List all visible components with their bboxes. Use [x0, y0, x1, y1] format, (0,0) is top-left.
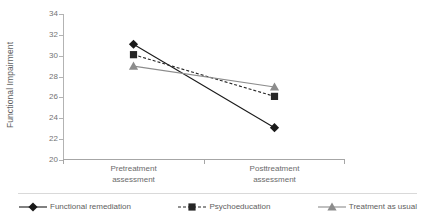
- legend-label: Functional remediation: [50, 203, 131, 211]
- triangle-marker: [129, 62, 138, 70]
- y-axis-title: Functional Impairment: [0, 0, 20, 170]
- diamond-marker: [28, 202, 37, 211]
- y-axis-tick-mark: [59, 139, 63, 140]
- series-line: [134, 66, 275, 87]
- y-axis-tick-mark: [59, 35, 63, 36]
- legend-key-triangle: [317, 201, 347, 213]
- legend-items: Functional remediationPsychoeducationTre…: [18, 197, 417, 217]
- series-layer: [63, 14, 345, 160]
- legend-key-diamond: [18, 201, 48, 213]
- y-axis-tick-label: 32: [36, 31, 58, 39]
- legend-divider: [18, 193, 417, 194]
- legend-label: Treatment as usual: [349, 203, 417, 211]
- square-marker: [271, 93, 278, 100]
- series-2: [130, 51, 278, 100]
- y-axis-tick-mark: [59, 97, 63, 98]
- y-axis-tick-label: 34: [36, 10, 58, 18]
- legend-key: [177, 201, 207, 213]
- legend-key: [317, 201, 347, 213]
- legend-label: Psychoeducation: [209, 203, 270, 211]
- chart-legend: Functional remediationPsychoeducationTre…: [0, 193, 433, 221]
- series-line: [134, 55, 275, 97]
- legend-entry-3[interactable]: Treatment as usual: [317, 201, 417, 213]
- y-axis-tick-label: 26: [36, 93, 58, 101]
- legend-entry-2[interactable]: Psychoeducation: [177, 201, 270, 213]
- y-axis-title-text: Functional Impairment: [5, 42, 15, 128]
- series-line: [134, 44, 275, 127]
- y-axis-tick-label: 24: [36, 114, 58, 122]
- chart-figure: Functional Impairment 3432302826242220 P…: [0, 0, 433, 221]
- y-axis-tick-label: 22: [36, 135, 58, 143]
- y-axis-tick-mark: [59, 14, 63, 15]
- y-axis-tick-label: 30: [36, 52, 58, 60]
- legend-entry-1[interactable]: Functional remediation: [18, 201, 131, 213]
- y-axis-tick-label: 20: [36, 156, 58, 164]
- plot-area: [63, 14, 345, 160]
- square-marker: [189, 203, 196, 210]
- y-axis-tick-mark: [59, 77, 63, 78]
- x-axis-category-label: Posttreatmentassessment: [215, 164, 335, 185]
- square-marker: [130, 51, 137, 58]
- x-axis-category-labels: PretreatmentassessmentPosttreatmentasses…: [63, 164, 345, 190]
- x-axis-category-label: Pretreatmentassessment: [74, 164, 194, 185]
- diamond-marker: [129, 40, 138, 49]
- y-axis-tick-mark: [59, 118, 63, 119]
- y-axis-tick-labels: 3432302826242220: [20, 0, 58, 170]
- legend-key-square: [177, 201, 207, 213]
- series-1: [129, 40, 279, 133]
- legend-key: [18, 201, 48, 213]
- diamond-marker: [270, 123, 279, 132]
- y-axis-tick-label: 28: [36, 73, 58, 81]
- y-axis-tick-mark: [59, 56, 63, 57]
